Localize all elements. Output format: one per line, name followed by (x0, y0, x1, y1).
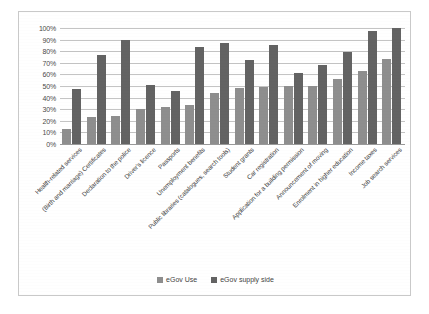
y-axis-tick-label: 90% (43, 36, 56, 43)
bar-egov-use (62, 129, 71, 144)
y-axis-tick-label: 50% (43, 83, 56, 90)
legend-item[interactable]: eGov Use (157, 276, 197, 283)
x-axis-category-label-text: Unemployment benefits (155, 146, 206, 197)
y-axis-tick-label: 0% (46, 141, 56, 148)
legend-item[interactable]: eGov supply side (211, 276, 274, 283)
y-axis-tick-label: 30% (43, 106, 56, 113)
y-axis-tick-label: 20% (43, 117, 56, 124)
y-axis-tick-label: 40% (43, 94, 56, 101)
y-axis-tick-label: 10% (43, 129, 56, 136)
x-axis-category-label-text: Passports (157, 146, 181, 170)
x-axis-category-labels: Health-related services(Birth and marria… (60, 146, 405, 266)
y-axis-tick-label: 100% (39, 25, 56, 32)
y-axis-tick-label: 70% (43, 59, 56, 66)
y-axis-tick-label: 60% (43, 71, 56, 78)
legend-swatch-icon (157, 277, 163, 283)
legend-label: eGov Use (166, 276, 197, 283)
bar-egov-supply-side (72, 89, 81, 144)
bar-group (60, 28, 85, 144)
y-axis-tick-labels: 100%90%80%70%60%50%40%30%20%10%0% (19, 28, 59, 144)
chart-frame: 100%90%80%70%60%50%40%30%20%10%0% Health… (18, 11, 411, 296)
chart-legend: eGov UseeGov supply side (19, 276, 412, 283)
legend-label: eGov supply side (220, 276, 274, 283)
legend-swatch-icon (211, 277, 217, 283)
y-axis-tick-label: 80% (43, 48, 56, 55)
